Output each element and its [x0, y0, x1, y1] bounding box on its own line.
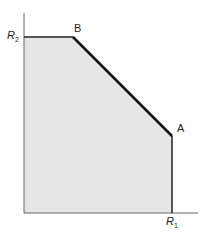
r1-label: R1 [166, 215, 178, 229]
r2-label: R2 [7, 29, 19, 43]
region-diagram [0, 0, 207, 237]
point-a-label: A [177, 122, 184, 134]
point-b-label: B [74, 22, 81, 34]
